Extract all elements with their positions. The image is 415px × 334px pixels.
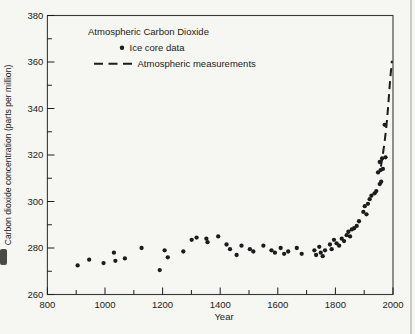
- ice-core-dot: [295, 246, 299, 250]
- y-axis-label: Carbon dioxide concentration (parts per …: [3, 65, 13, 246]
- ice-core-dot: [317, 245, 321, 249]
- ice-core-dot: [300, 252, 304, 256]
- x-tick-label: 1000: [94, 299, 115, 310]
- ice-core-dot: [312, 248, 316, 252]
- ice-core-dot: [321, 254, 325, 258]
- ice-core-dot: [348, 234, 352, 238]
- ice-core-dot: [190, 238, 194, 242]
- atmospheric-measurements-line: [381, 61, 392, 167]
- ice-core-dot: [194, 235, 198, 239]
- y-tick-label: 300: [28, 196, 44, 207]
- ice-core-dot: [239, 244, 243, 248]
- ice-core-dot: [381, 167, 385, 171]
- ice-core-dot: [139, 246, 143, 250]
- ice-core-dot: [330, 247, 334, 251]
- ice-core-dot: [181, 249, 185, 253]
- ice-core-dot: [158, 268, 162, 272]
- x-tick-label: 1400: [210, 299, 231, 310]
- x-tick-label: 2000: [382, 299, 403, 310]
- ice-core-dot: [314, 253, 318, 257]
- x-tick-label: 1200: [152, 299, 173, 310]
- ice-core-dot: [323, 248, 327, 252]
- ice-core-dot: [379, 180, 383, 184]
- ice-core-dot: [355, 224, 359, 228]
- ice-core-dot: [364, 212, 368, 216]
- axis-tick-labels: 8001000120014001600180020002602803003203…: [28, 10, 404, 310]
- co2-chart-figure: 8001000120014001600180020002602803003203…: [0, 0, 415, 334]
- legend-dot-marker-icon: [120, 46, 124, 50]
- y-tick-label: 320: [28, 149, 44, 160]
- y-tick-label: 340: [28, 103, 44, 114]
- ice-core-dot: [342, 239, 346, 243]
- ice-core-dot: [383, 155, 387, 159]
- y-tick-label: 360: [28, 56, 44, 67]
- chart-title: Atmospheric Carbon Dioxide: [88, 26, 209, 37]
- page-edge-line: [410, 0, 412, 334]
- ice-core-dot: [205, 240, 209, 244]
- ice-core-dot: [273, 251, 277, 255]
- x-tick-label: 800: [39, 299, 55, 310]
- legend-label-atmospheric: Atmospheric measurements: [138, 58, 257, 69]
- legend: Atmospheric Carbon Dioxide Ice core data…: [88, 26, 256, 69]
- ice-core-dot: [123, 256, 127, 260]
- ice-core-dot: [286, 249, 290, 253]
- ice-core-dot: [75, 263, 79, 267]
- ice-core-dot: [261, 244, 265, 248]
- ice-core-dot: [162, 248, 166, 252]
- ice-core-dot: [374, 189, 378, 193]
- ice-core-dot: [234, 253, 238, 257]
- ice-core-dot: [328, 242, 332, 246]
- ice-core-dot: [251, 249, 255, 253]
- ice-core-dot: [87, 257, 91, 261]
- scan-artifact: [0, 249, 7, 265]
- ice-core-dot: [279, 246, 283, 250]
- co2-chart: 8001000120014001600180020002602803003203…: [0, 0, 415, 334]
- data-layer: [75, 61, 391, 272]
- y-tick-label: 280: [28, 242, 44, 253]
- ice-core-dot: [332, 238, 336, 242]
- ice-core-dot: [112, 251, 116, 255]
- ice-core-dot: [282, 252, 286, 256]
- ice-core-dot: [357, 219, 361, 223]
- ice-core-dot: [101, 261, 105, 265]
- ice-core-dot: [337, 244, 341, 248]
- ice-core-dot: [166, 255, 170, 259]
- x-tick-label: 1800: [325, 299, 346, 310]
- y-tick-label: 260: [28, 289, 44, 300]
- ice-core-dot: [224, 242, 228, 246]
- x-tick-label: 1600: [267, 299, 288, 310]
- ice-core-dot: [366, 202, 370, 206]
- ice-core-dot: [113, 259, 117, 263]
- ice-core-dot: [216, 234, 220, 238]
- legend-label-ice-core: Ice core data: [130, 42, 186, 53]
- ice-core-dot: [228, 247, 232, 251]
- y-tick-label: 380: [28, 10, 44, 21]
- x-axis-label: Year: [214, 311, 233, 322]
